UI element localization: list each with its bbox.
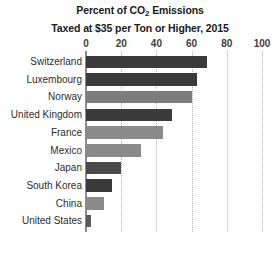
chart-container: Percent of CO2 Emissions Taxed at $35 pe… xyxy=(0,0,280,255)
chart-row: South Korea xyxy=(86,177,262,195)
bar-china xyxy=(86,197,104,210)
bar-japan xyxy=(86,162,121,175)
chart-row: United Kingdom xyxy=(86,106,262,124)
chart-row: Mexico xyxy=(86,142,262,160)
bar-united-kingdom xyxy=(86,109,172,122)
category-label-japan: Japan xyxy=(55,159,82,177)
chart-row: United States xyxy=(86,212,262,230)
category-label-united-kingdom: United Kingdom xyxy=(11,106,82,124)
x-tick-label-100: 100 xyxy=(254,38,271,50)
category-label-china: China xyxy=(56,195,82,213)
plot-area: SwitzerlandLuxembourgNorwayUnited Kingdo… xyxy=(86,53,262,230)
chart-title-line-1-post: Emissions xyxy=(149,4,203,16)
x-tick-label-80: 80 xyxy=(221,38,232,50)
chart-row: Japan xyxy=(86,159,262,177)
category-label-south-korea: South Korea xyxy=(26,177,82,195)
chart-row: Norway xyxy=(86,88,262,106)
bar-switzerland xyxy=(86,56,207,69)
category-label-switzerland: Switzerland xyxy=(30,53,82,71)
category-label-luxembourg: Luxembourg xyxy=(26,71,82,89)
bar-norway xyxy=(86,91,192,104)
chart-title-line-1: Percent of CO2 Emissions xyxy=(0,3,280,21)
x-tick-label-60: 60 xyxy=(186,38,197,50)
category-label-united-states: United States xyxy=(22,212,82,230)
category-label-france: France xyxy=(51,124,82,142)
category-label-mexico: Mexico xyxy=(50,142,82,160)
x-tick-label-0: 0 xyxy=(83,38,89,50)
chart-row: Switzerland xyxy=(86,53,262,71)
chart-title: Percent of CO2 Emissions Taxed at $35 pe… xyxy=(0,3,280,35)
chart-row: France xyxy=(86,124,262,142)
x-axis-tick-labels: 020406080100 xyxy=(0,38,280,52)
category-label-norway: Norway xyxy=(48,88,82,106)
chart-row: Luxembourg xyxy=(86,71,262,89)
x-tick-label-20: 20 xyxy=(116,38,127,50)
bar-south-korea xyxy=(86,179,112,192)
bar-mexico xyxy=(86,144,141,157)
chart-row: China xyxy=(86,195,262,213)
bar-france xyxy=(86,126,163,139)
gridline-100 xyxy=(262,51,263,232)
bar-united-states xyxy=(86,215,91,228)
chart-title-line-2: Taxed at $35 per Ton or Higher, 2015 xyxy=(0,21,280,35)
chart-title-line-1-pre: Percent of CO xyxy=(76,4,145,16)
x-tick-label-40: 40 xyxy=(151,38,162,50)
bar-luxembourg xyxy=(86,73,197,86)
